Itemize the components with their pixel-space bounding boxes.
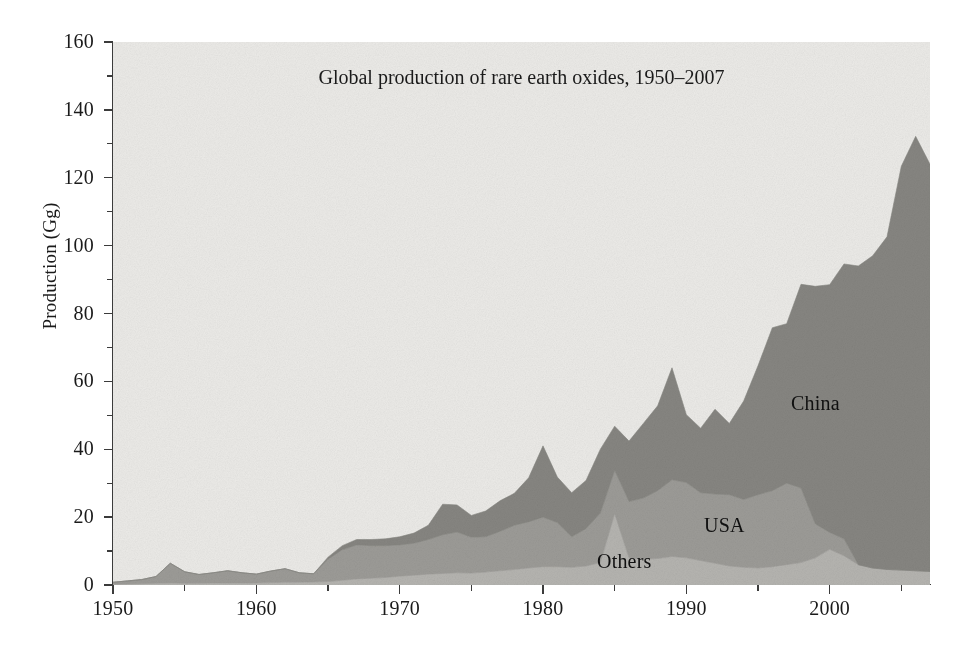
y-tick-label: 80 bbox=[34, 303, 94, 323]
series-label-others: Others bbox=[597, 550, 652, 573]
stacked-area-plot bbox=[113, 42, 930, 585]
y-tick-major bbox=[104, 177, 113, 178]
x-tick-label: 2000 bbox=[785, 597, 875, 619]
y-tick-major bbox=[104, 245, 113, 246]
y-tick-major bbox=[104, 449, 113, 450]
x-tick-major bbox=[112, 585, 113, 594]
x-tick-minor bbox=[471, 585, 472, 591]
plot-area: Global production of rare earth oxides, … bbox=[113, 42, 930, 585]
x-tick-major bbox=[256, 585, 257, 594]
x-tick-minor bbox=[901, 585, 902, 591]
chart-title: Global production of rare earth oxides, … bbox=[113, 66, 930, 89]
x-tick-label: 1970 bbox=[355, 597, 445, 619]
y-tick-label: 0 bbox=[34, 574, 94, 594]
x-tick-minor bbox=[184, 585, 185, 591]
x-tick-minor bbox=[757, 585, 758, 591]
x-tick-label: 1960 bbox=[211, 597, 301, 619]
y-axis-title: Production (Gg) bbox=[39, 156, 61, 376]
y-tick-major bbox=[104, 109, 113, 110]
x-tick-label: 1990 bbox=[641, 597, 731, 619]
x-tick-label: 1950 bbox=[68, 597, 158, 619]
y-tick-major bbox=[104, 41, 113, 42]
x-tick-major bbox=[829, 585, 830, 594]
y-tick-major bbox=[104, 313, 113, 314]
y-tick-label: 40 bbox=[34, 438, 94, 458]
chart-figure: Production (Gg) 020406080100120140160 19… bbox=[0, 0, 962, 665]
y-tick-major bbox=[104, 516, 113, 517]
y-tick-label: 100 bbox=[34, 235, 94, 255]
x-tick-major bbox=[686, 585, 687, 594]
series-label-usa: USA bbox=[704, 514, 745, 537]
x-tick-major bbox=[399, 585, 400, 594]
y-tick-major bbox=[104, 381, 113, 382]
y-tick-label: 120 bbox=[34, 167, 94, 187]
series-label-china: China bbox=[791, 392, 840, 415]
x-tick-minor bbox=[327, 585, 328, 591]
x-tick-major bbox=[542, 585, 543, 594]
y-tick-label: 20 bbox=[34, 506, 94, 526]
y-tick-label: 60 bbox=[34, 370, 94, 390]
y-tick-label: 160 bbox=[34, 31, 94, 51]
x-tick-label: 1980 bbox=[498, 597, 588, 619]
x-tick-minor bbox=[614, 585, 615, 591]
y-tick-label: 140 bbox=[34, 99, 94, 119]
